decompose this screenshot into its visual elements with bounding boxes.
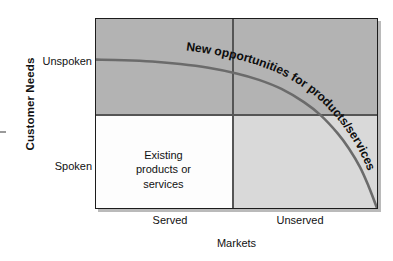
x-tick-unserved-label: Unserved	[245, 214, 355, 226]
plot-area: New opportunities for products/services …	[95, 18, 378, 209]
y-tick-spoken: Spoken	[28, 160, 92, 174]
existing-label-line-1: Existing	[99, 148, 228, 163]
y-tick-unspoken: Unspoken	[28, 55, 92, 69]
margin-tick-decoration	[0, 131, 6, 133]
x-tick-served-label: Served	[120, 214, 220, 226]
existing-label-line-3: services	[99, 177, 228, 192]
existing-label-line-2: products or	[99, 162, 228, 177]
chart-figure: Customer Needs Unspoken Spoken New oppor…	[0, 0, 393, 261]
x-axis-title: Markets	[95, 237, 378, 249]
quadrant-label-existing-products: Existing products or services	[99, 148, 228, 192]
y-tick-unspoken-label: Unspoken	[32, 55, 92, 67]
y-tick-spoken-label: Spoken	[32, 160, 92, 172]
